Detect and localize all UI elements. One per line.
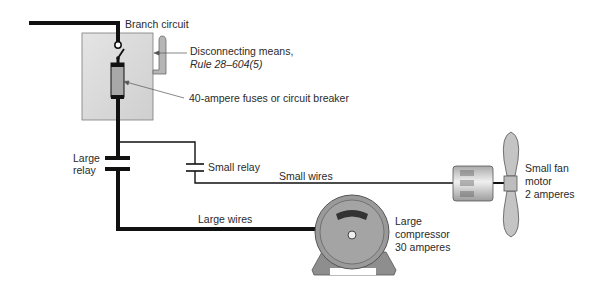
fan-blade-icon	[503, 132, 518, 237]
disconnect-handle-icon	[153, 36, 166, 74]
fan-motor-label: Small fan	[525, 162, 569, 175]
fuse-icon	[111, 63, 124, 99]
switch-contact-icon	[115, 42, 121, 48]
compressor-label: Large	[395, 215, 422, 228]
branch-circuit-label: Branch circuit	[125, 18, 189, 31]
large-relay-label-2: relay	[73, 164, 96, 177]
small-wires-label: Small wires	[279, 170, 333, 183]
fan-motor-amps-label: 2 amperes	[525, 188, 575, 201]
large-wires-label: Large wires	[198, 213, 252, 226]
fan-motor-icon	[453, 166, 505, 201]
circuit-diagram	[0, 0, 595, 285]
disconnect-rule-label: Rule 28–604(5)	[190, 58, 262, 71]
large-relay-icon	[105, 156, 130, 171]
disconnect-label: Disconnecting means,	[190, 45, 293, 58]
compressor-amps-label: 30 amperes	[395, 241, 450, 254]
compressor-label-2: compressor	[395, 228, 450, 241]
small-relay-feed-wire	[118, 142, 195, 164]
fuse-label: 40-ampere fuses or circuit breaker	[189, 92, 349, 105]
small-relay-label: Small relay	[208, 161, 260, 174]
fan-motor-label-2: motor	[525, 175, 552, 188]
small-relay-icon	[186, 164, 204, 171]
compressor-icon	[312, 195, 396, 275]
